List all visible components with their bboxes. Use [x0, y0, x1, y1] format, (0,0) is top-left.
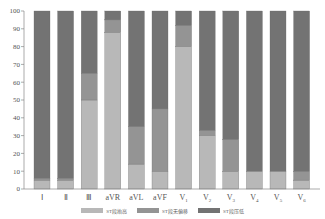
- x-tick-label: V3: [227, 193, 236, 203]
- legend-label: ST段无偏移: [162, 207, 188, 214]
- x-tick-label: aVR: [105, 193, 120, 202]
- bar-segment: [199, 11, 215, 130]
- bar-segment: [81, 73, 97, 100]
- y-tick-label: 90: [13, 25, 21, 33]
- bar-segment: [58, 11, 74, 178]
- y-tick-label: 30: [13, 132, 21, 140]
- x-tick-label: V1: [179, 193, 188, 203]
- bar-segment: [152, 171, 168, 189]
- bar-segment: [270, 171, 286, 189]
- legend: ST段抬高 ST段无偏移 ST段压低: [0, 204, 325, 216]
- bar-segment: [199, 130, 215, 135]
- bar-segment: [128, 127, 144, 164]
- x-axis: ⅠⅡⅢaVRaVLaVFV1V2V3V4V5V6: [24, 189, 320, 203]
- x-tick-label: V4: [250, 193, 259, 203]
- bar-segment: [81, 100, 97, 189]
- bar-segment: [270, 11, 286, 171]
- x-tick-label: aVL: [129, 193, 143, 202]
- bar-segment: [294, 180, 310, 189]
- legend-label: ST段压低: [223, 207, 244, 214]
- bar-segment: [199, 136, 215, 189]
- x-tick-label: V5: [274, 193, 283, 203]
- x-tick-label: aVF: [153, 193, 167, 202]
- y-tick-label: 0: [17, 185, 21, 193]
- y-tick-label: 80: [13, 43, 21, 51]
- bar-segment: [223, 139, 239, 171]
- bar-segment: [223, 171, 239, 189]
- legend-item-st-no-deviation: ST段无偏移: [137, 207, 188, 214]
- y-tick-label: 100: [10, 7, 21, 15]
- bar-segment: [294, 171, 310, 180]
- legend-item-st-depression: ST段压低: [198, 207, 244, 214]
- x-tick-label: V6: [297, 193, 306, 203]
- bar-segment: [246, 11, 262, 171]
- bar-segment: [105, 11, 121, 20]
- y-tick-label: 50: [13, 96, 21, 104]
- bar-segment: [34, 178, 50, 180]
- legend-swatch: [137, 208, 159, 213]
- y-axis: 0102030405060708090100: [10, 7, 25, 193]
- bar-segment: [81, 11, 97, 73]
- bar-segment: [34, 180, 50, 189]
- bar-segment: [176, 11, 192, 25]
- y-tick-label: 70: [13, 61, 21, 69]
- bar-segment: [105, 32, 121, 189]
- x-tick-label: Ⅲ: [86, 193, 92, 202]
- bar-segment: [128, 164, 144, 189]
- legend-swatch: [81, 208, 103, 213]
- bar-segment: [246, 171, 262, 189]
- y-tick-label: 20: [13, 150, 21, 158]
- x-tick-label: V2: [203, 193, 212, 203]
- x-tick-label: Ⅱ: [64, 193, 68, 202]
- bar-segment: [105, 20, 121, 32]
- bar-segment: [58, 178, 74, 180]
- bars: [34, 11, 310, 189]
- y-tick-label: 40: [13, 114, 21, 122]
- legend-item-st-elevation: ST段抬高: [81, 207, 127, 214]
- legend-swatch: [198, 208, 220, 213]
- bar-segment: [34, 11, 50, 178]
- bar-segment: [152, 11, 168, 109]
- bar-segment: [176, 47, 192, 189]
- bar-segment: [176, 25, 192, 46]
- bar-segment: [223, 11, 239, 139]
- x-tick-label: Ⅰ: [41, 193, 43, 202]
- bar-segment: [294, 11, 310, 171]
- y-tick-label: 60: [13, 79, 21, 87]
- bar-segment: [152, 109, 168, 171]
- bar-segment: [128, 11, 144, 127]
- stacked-bar-chart: 0102030405060708090100 ⅠⅡⅢaVRaVLaVFV1V2V…: [0, 0, 325, 219]
- bar-segment: [58, 180, 74, 189]
- y-tick-label: 10: [13, 168, 21, 176]
- legend-label: ST段抬高: [106, 207, 127, 214]
